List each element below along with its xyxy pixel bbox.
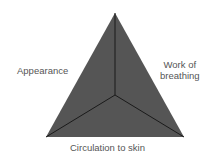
diagram: Appearance Work of breathing Circulation… [0,0,214,161]
label-appearance: Appearance [17,65,68,76]
label-line: Work of [160,59,200,70]
label-line: breathing [160,70,200,81]
label-work-of-breathing: Work of breathing [160,59,200,81]
label-circulation: Circulation to skin [70,142,145,153]
